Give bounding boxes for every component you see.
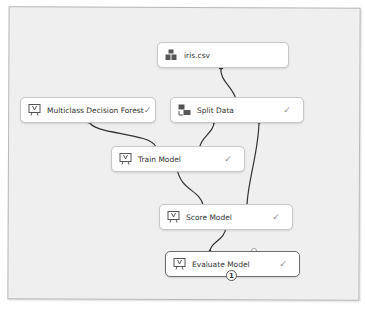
split-data-icon xyxy=(178,104,191,116)
node-score-model[interactable]: Score Model ✓ xyxy=(159,204,293,230)
node-label: Score Model xyxy=(186,213,270,222)
success-check-icon: ✓ xyxy=(281,105,293,115)
node-label: Evaluate Model xyxy=(192,260,277,269)
dataset-icon xyxy=(165,49,178,61)
node-iris-csv[interactable]: iris.csv xyxy=(157,42,289,68)
module-icon xyxy=(173,258,186,270)
success-check-icon: ✓ xyxy=(270,212,282,222)
success-check-icon: ✓ xyxy=(222,154,234,164)
output-port-badge[interactable]: 1 xyxy=(226,270,237,281)
node-split-data[interactable]: Split Data ✓ xyxy=(170,97,304,123)
module-icon xyxy=(119,153,132,165)
node-train-model[interactable]: Train Model ✓ xyxy=(111,146,245,172)
success-check-icon: ✓ xyxy=(277,259,289,269)
node-label: Split Data xyxy=(197,106,281,115)
success-check-icon: ✓ xyxy=(144,105,152,115)
node-label: Train Model xyxy=(138,155,222,164)
node-multiclass-decision-forest[interactable]: Multiclass Decision Forest ✓ xyxy=(20,97,156,123)
module-icon xyxy=(167,211,180,223)
node-label: Multiclass Decision Forest xyxy=(47,106,144,115)
node-label: iris.csv xyxy=(184,51,288,60)
module-icon xyxy=(28,104,41,116)
